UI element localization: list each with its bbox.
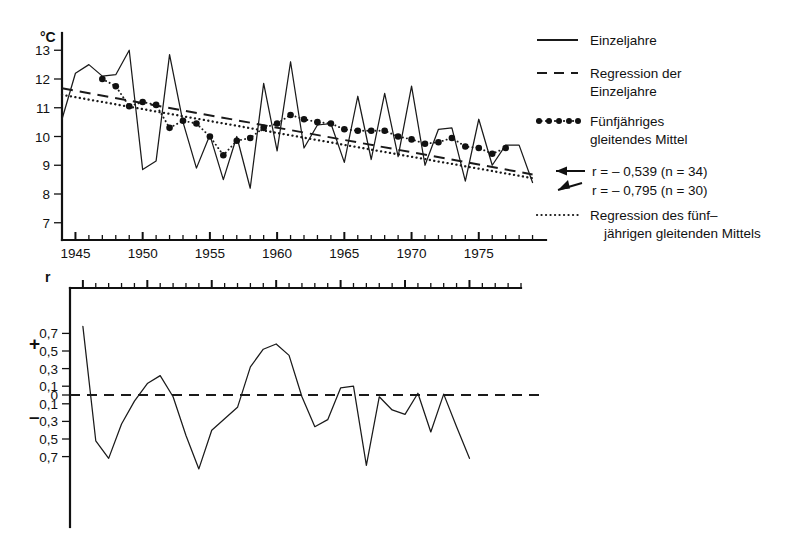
temperature-y-tick-label: 8 <box>42 187 50 202</box>
temperature-x-tick-label: 1945 <box>60 246 90 261</box>
temperature-mean-marker <box>180 117 187 124</box>
temperature-mean-marker <box>422 140 429 147</box>
temperature-mean-marker <box>502 145 509 152</box>
temperature-y-tick-label: 13 <box>35 43 50 58</box>
temperature-mean-marker <box>166 125 173 132</box>
correlation-y-axis-title: r <box>45 269 51 285</box>
temperature-mean-marker <box>287 112 294 119</box>
temperature-mean-marker <box>435 139 442 146</box>
temperature-y-tick-label: 10 <box>35 130 50 145</box>
correlation-series-group <box>83 326 470 469</box>
temperature-x-tick-label: 1970 <box>397 246 427 261</box>
temperature-y-tick-label: 9 <box>42 158 50 173</box>
temperature-mean-marker <box>220 152 227 159</box>
correlation-y-tick-label: 0,3 <box>39 362 58 377</box>
annotation-r-gleitendes-mittel: r = – 0,795 (n = 30) <box>592 183 708 198</box>
temperature-mean-marker <box>233 138 240 145</box>
temperature-mean-marker <box>99 76 106 83</box>
legend: Einzeljahre Regression der Einzeljahre F… <box>536 33 761 241</box>
temperature-mean-marker <box>139 99 146 106</box>
temperature-x-tick-label: 1955 <box>195 246 225 261</box>
legend-label-regression-mittel-line1: Regression des fünf– <box>590 208 718 223</box>
correlation-x-ticks <box>83 280 521 288</box>
climate-temperature-correlation-figure: °C 13121110987 1945195019551960196519701… <box>0 0 785 539</box>
temperature-mean-marker <box>314 119 321 126</box>
correlation-y-tick-label: 0,5 <box>39 432 58 447</box>
temperature-mean-marker <box>368 127 375 134</box>
temperature-x-tick-label: 1965 <box>329 246 359 261</box>
correlation-y-tick-label: 0,3 <box>39 414 58 429</box>
temperature-x-tick-label: 1975 <box>464 246 494 261</box>
temperature-series-group <box>62 50 533 188</box>
legend-label-regression-mittel-line2: jährigen gleitenden Mittels <box>603 226 761 241</box>
correlation-negative-sign: – <box>29 406 40 427</box>
correlation-y-tick-label: 0,7 <box>39 450 58 465</box>
temperature-mean-marker <box>449 135 456 142</box>
correlation-y-tick-label: 0,5 <box>39 344 58 359</box>
temperature-mean-marker <box>408 136 415 143</box>
temperature-mean-marker <box>328 120 335 127</box>
temperature-mean-marker <box>274 120 281 127</box>
temperature-mean-marker <box>395 133 402 140</box>
temperature-mean-marker <box>489 150 496 157</box>
temperature-x-tick-label: 1960 <box>262 246 292 261</box>
annotation-arrow-gleitendes-mittel-icon <box>558 180 582 190</box>
correlation-y-ticks: 0,70,50,30,100,10,30,50,7 <box>39 326 70 464</box>
temperature-y-tick-label: 11 <box>36 101 50 116</box>
temperature-mean-marker <box>462 143 469 150</box>
temperature-mean-marker <box>153 102 160 109</box>
temperature-mean-marker <box>207 133 214 140</box>
temperature-mean-marker <box>381 127 388 134</box>
legend-label-regression-einzeljahre-line2: Einzeljahre <box>590 84 657 99</box>
legend-swatch-dotted-markers-icon <box>536 118 581 124</box>
temperature-panel: °C 13121110987 1945195019551960196519701… <box>35 29 546 261</box>
correlation-y-tick-label: 0,7 <box>39 326 58 341</box>
temperature-mean-marker <box>475 145 482 152</box>
correlation-series-r <box>83 326 470 469</box>
temperature-x-ticks: 1945195019551960196519701975 <box>60 232 532 261</box>
temperature-mean-marker <box>193 120 200 127</box>
temperature-mean-marker <box>354 127 361 134</box>
temperature-y-tick-label: 7 <box>42 216 50 231</box>
temperature-mean-marker <box>247 135 254 142</box>
annotation-arrow-einzeljahre-icon <box>556 167 585 176</box>
annotation-r-einzeljahre: r = – 0,539 (n = 34) <box>592 164 708 179</box>
correlation-y-tick-label: 0,1 <box>39 397 58 412</box>
temperature-mean-marker <box>112 83 119 90</box>
legend-label-gleitendes-mittel-line1: Fünfjähriges <box>590 114 665 129</box>
legend-label-einzeljahre: Einzeljahre <box>590 33 657 48</box>
legend-label-regression-einzeljahre-line1: Regression der <box>590 66 682 81</box>
temperature-series-einzeljahre <box>62 50 533 188</box>
correlation-panel: r + – 0,70,50,30,100,10,30,50,7 <box>29 269 545 527</box>
temperature-mean-marker <box>341 126 348 133</box>
legend-label-gleitendes-mittel-line2: gleitendes Mittel <box>590 132 688 147</box>
temperature-x-tick-label: 1950 <box>128 246 158 261</box>
temperature-mean-marker <box>301 116 308 123</box>
temperature-y-tick-label: 12 <box>35 72 50 87</box>
temperature-y-ticks: 13121110987 <box>35 43 62 231</box>
